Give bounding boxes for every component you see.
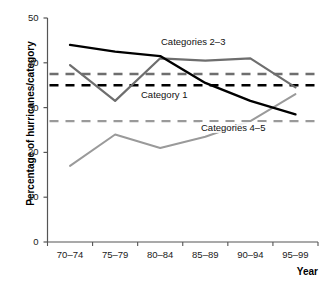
x-tick-label: 70–74 bbox=[47, 249, 93, 260]
chart-figure: Percentage of hurricanes/category Year 0… bbox=[0, 0, 326, 281]
x-tick-marks bbox=[48, 242, 319, 246]
axis-lines bbox=[48, 18, 319, 242]
x-axis-title: Year bbox=[297, 266, 318, 277]
series-label-categories-4-5: Categories 4–5 bbox=[200, 122, 266, 133]
x-tick-label: 90–94 bbox=[227, 249, 273, 260]
y-tick-label: 10 bbox=[17, 191, 39, 202]
series-label-categories-2-3: Categories 2–3 bbox=[160, 36, 226, 47]
y-tick-label: 30 bbox=[17, 102, 39, 113]
x-tick-label: 80–84 bbox=[137, 249, 183, 260]
x-tick-label: 95–99 bbox=[272, 249, 318, 260]
x-tick-label: 85–89 bbox=[182, 249, 228, 260]
y-tick-label: 20 bbox=[17, 146, 39, 157]
data-series bbox=[70, 45, 295, 166]
x-tick-label: 75–79 bbox=[92, 249, 138, 260]
series-label-category-1: Category 1 bbox=[140, 89, 188, 100]
series-line bbox=[70, 45, 295, 114]
y-tick-label: 50 bbox=[17, 12, 39, 23]
y-tick-label: 40 bbox=[17, 57, 39, 68]
y-tick-label: 0 bbox=[17, 236, 39, 247]
